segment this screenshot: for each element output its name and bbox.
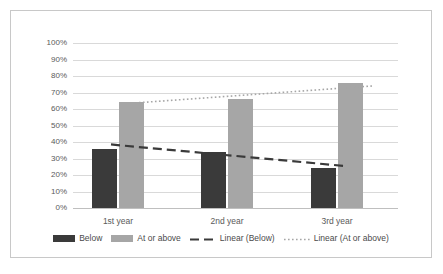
legend-swatch-dotted-line-icon: [284, 235, 310, 242]
chart-legend: Below At or above Linear (Below) Linear …: [11, 233, 431, 243]
legend-label-at-or-above: At or above: [137, 233, 180, 243]
bar-at-or-above-1st-year[interactable]: [119, 102, 144, 208]
legend-item-linear-below[interactable]: Linear (Below): [190, 233, 275, 243]
y-axis-tick-0: 0%: [55, 204, 67, 212]
y-axis-tick-40: 40%: [51, 138, 67, 146]
legend-label-below: Below: [79, 233, 102, 243]
legend-swatch-below-icon: [53, 235, 75, 242]
y-axis-tick-60: 60%: [51, 105, 67, 113]
y-axis-tick-10: 10%: [51, 188, 67, 196]
gridline-90: [73, 60, 398, 61]
y-axis-tick-100: 100%: [47, 39, 67, 47]
y-axis-tick-30: 30%: [51, 155, 67, 163]
legend-swatch-dashed-line-icon: [190, 235, 216, 242]
plot-area: 100% 90% 80% 70% 60% 50% 40% 30% 20% 10%…: [73, 43, 398, 208]
legend-item-at-or-above[interactable]: At or above: [111, 233, 180, 243]
y-axis-tick-20: 20%: [51, 171, 67, 179]
legend-item-linear-at-or-above[interactable]: Linear (At or above): [284, 233, 389, 243]
gridline-100: [73, 43, 398, 44]
y-axis-tick-90: 90%: [51, 56, 67, 64]
gridline-80: [73, 76, 398, 77]
legend-swatch-at-or-above-icon: [111, 235, 133, 242]
bar-below-3rd-year[interactable]: [311, 168, 336, 208]
legend-label-linear-at-or-above: Linear (At or above): [314, 233, 389, 243]
axis-baseline: [73, 208, 398, 209]
y-axis-tick-50: 50%: [51, 122, 67, 130]
x-axis-tick-3rd-year: 3rd year: [321, 217, 352, 226]
legend-item-below[interactable]: Below: [53, 233, 102, 243]
bar-at-or-above-3rd-year[interactable]: [338, 83, 363, 208]
x-axis-tick-2nd-year: 2nd year: [210, 217, 243, 226]
chart-frame: 100% 90% 80% 70% 60% 50% 40% 30% 20% 10%…: [10, 10, 432, 258]
legend-label-linear-below: Linear (Below): [220, 233, 275, 243]
bar-at-or-above-2nd-year[interactable]: [228, 99, 253, 208]
y-axis-tick-70: 70%: [51, 89, 67, 97]
bar-below-1st-year[interactable]: [92, 149, 117, 208]
x-axis-tick-1st-year: 1st year: [103, 217, 133, 226]
bar-below-2nd-year[interactable]: [201, 152, 226, 208]
y-axis-tick-80: 80%: [51, 72, 67, 80]
